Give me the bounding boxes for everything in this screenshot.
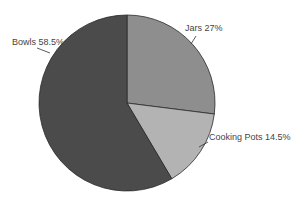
pie-chart: Jars 27%Cooking Pots 14.5%Bowls 58.5% xyxy=(0,0,293,205)
slice-label: Cooking Pots 14.5% xyxy=(209,132,291,142)
pie-slices xyxy=(39,15,215,191)
leader-line xyxy=(191,36,196,44)
slice-label: Bowls 58.5% xyxy=(12,37,64,47)
slice-label: Jars 27% xyxy=(185,23,223,33)
leader-line xyxy=(37,48,50,53)
